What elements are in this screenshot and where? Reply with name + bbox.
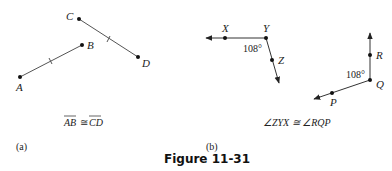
panel-b: X Y Z 108° R Q P 108° ∠ZYX ≅ ∠RQP (b) (206, 22, 384, 153)
label-a: A (15, 81, 23, 93)
point-b (80, 43, 84, 47)
label-z: Z (278, 54, 285, 66)
label-d: D (141, 57, 150, 69)
point-p (330, 91, 334, 95)
point-x (223, 36, 227, 40)
caption-a: AB ≅ CD (63, 116, 104, 128)
label-b: B (87, 39, 94, 51)
caption-ab: AB (63, 117, 76, 128)
ray-qp (314, 80, 370, 99)
caption-cd: CD (89, 117, 104, 128)
label-p: P (329, 96, 337, 108)
angle-measure-y: 108° (243, 43, 262, 54)
segment-ab: A B (15, 39, 94, 93)
caption-congruent: ≅ (80, 117, 88, 128)
label-r: R (375, 49, 383, 61)
point-a (18, 75, 22, 79)
figure-title: Figure 11-31 (164, 152, 250, 166)
panel-label-a: (a) (16, 141, 27, 153)
caption-b: ∠ZYX ≅ ∠RQP (263, 117, 331, 128)
point-r (368, 53, 372, 57)
label-y: Y (263, 22, 271, 34)
angle-measure-q: 108° (346, 69, 365, 80)
angle-zyx: X Y Z 108° (206, 22, 285, 83)
point-z (270, 58, 274, 62)
label-x: X (221, 22, 230, 34)
figure-canvas: A B C D AB ≅ CD (a) X Y Z (0, 0, 392, 171)
point-y (264, 36, 268, 40)
label-c: C (66, 10, 74, 22)
point-q (368, 78, 372, 82)
angle-rqp: R Q P 108° (314, 33, 384, 108)
point-c (77, 17, 81, 21)
point-d (136, 55, 140, 59)
segment-cd: C D (66, 10, 150, 69)
panel-a: A B C D AB ≅ CD (a) (15, 10, 150, 153)
label-q: Q (376, 78, 384, 90)
